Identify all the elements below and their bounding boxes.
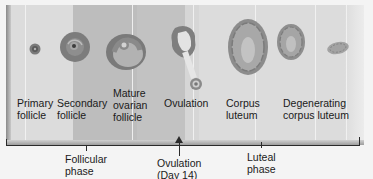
follicular-tick bbox=[86, 145, 87, 151]
corpus-luteum-icon bbox=[228, 19, 268, 75]
ovulation-icon bbox=[171, 26, 202, 90]
phase-label-follicular: Follicular phase bbox=[65, 153, 107, 177]
stage-label-mature-follicle: Mature ovarian follicle bbox=[113, 87, 147, 123]
stage-label-corpus-luteum: Corpus luteum bbox=[226, 97, 260, 121]
stage-label-degenerating-corpus-luteum: Degenerating corpus luteum bbox=[283, 97, 349, 121]
mature-follicle-icon bbox=[106, 34, 146, 70]
bracket-right-end bbox=[359, 137, 360, 146]
phase-bracket bbox=[6, 145, 360, 146]
follicle-illustrations bbox=[0, 0, 373, 179]
degenerating-corpus-luteum-icon bbox=[277, 24, 305, 60]
primary-follicle-icon bbox=[30, 44, 41, 55]
ovulation-arrow-icon bbox=[175, 136, 183, 143]
phase-label-ovulation: Ovulation (Day 14) bbox=[157, 157, 201, 179]
stage-label-secondary-follicle: Secondary follicle bbox=[57, 97, 107, 121]
phase-label-luteal: Luteal phase bbox=[247, 151, 276, 175]
stage-label-ovulation: Ovulation bbox=[164, 97, 208, 109]
corpus-albicans-icon bbox=[326, 40, 350, 56]
stage-label-primary-follicle: Primary follicle bbox=[17, 97, 53, 121]
secondary-follicle-icon bbox=[60, 32, 90, 62]
luteal-tick bbox=[261, 142, 262, 148]
